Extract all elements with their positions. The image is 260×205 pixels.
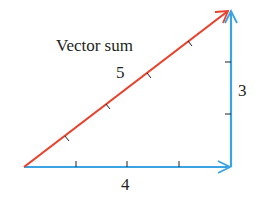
vertical-magnitude-label: 3 xyxy=(238,81,247,100)
horizontal-magnitude-label: 4 xyxy=(121,175,130,194)
vector-sum-diagram: Vector sum 5 3 4 xyxy=(0,0,260,205)
sum-vector xyxy=(24,11,228,167)
horizontal-vector xyxy=(24,161,230,173)
diagram-title: Vector sum xyxy=(56,36,133,55)
vertical-vector xyxy=(225,11,237,167)
sum-magnitude-label: 5 xyxy=(116,63,125,82)
